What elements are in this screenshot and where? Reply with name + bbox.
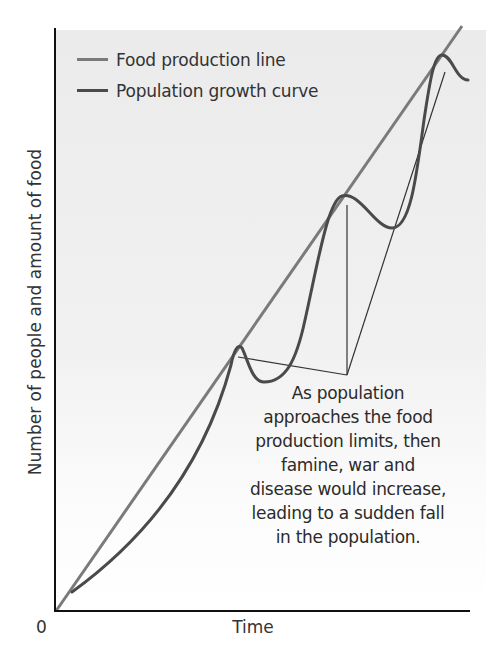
- x-axis-label: Time: [232, 617, 274, 637]
- legend-item-population: Population growth curve: [77, 75, 318, 106]
- legend-label: Population growth curve: [116, 81, 318, 101]
- annotation-line: leading to a sudden fall: [238, 501, 458, 525]
- annotation-line: in the population.: [238, 525, 458, 549]
- annotation-line: disease would increase,: [238, 477, 458, 501]
- annotation-line: As population: [238, 381, 458, 405]
- legend-item-food: Food production line: [77, 44, 318, 75]
- annotation-text: As population approaches the food produc…: [238, 381, 458, 549]
- annotation-line: approaches the food: [238, 405, 458, 429]
- legend-label: Food production line: [116, 50, 286, 70]
- legend: Food production line Population growth c…: [77, 44, 318, 106]
- origin-label: 0: [36, 617, 47, 637]
- population-line-swatch: [77, 89, 108, 92]
- food-line-swatch: [77, 58, 108, 61]
- y-axis-label: Number of people and amount of food: [25, 149, 45, 475]
- annotation-line: famine, war and: [238, 453, 458, 477]
- annotation-line: production limits, then: [238, 429, 458, 453]
